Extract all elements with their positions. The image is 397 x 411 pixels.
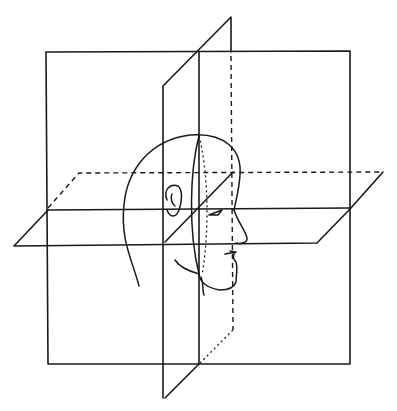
sagittal-plane (163, 17, 233, 398)
head-profile (123, 135, 247, 295)
anatomical-planes-diagram (0, 0, 397, 411)
diagram-canvas (0, 0, 397, 411)
